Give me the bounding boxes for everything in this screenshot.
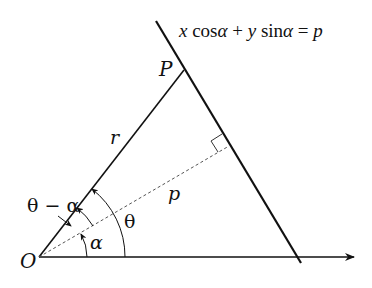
label-point-p: P — [158, 57, 173, 81]
polar-line-diagram: O P r p θ α θ − α x cosα + y sinα = p — [0, 0, 372, 288]
segment-op — [39, 70, 184, 257]
label-origin: O — [20, 249, 36, 273]
label-theta: θ — [124, 210, 135, 232]
label-theta-minus-alpha: θ − α — [27, 194, 79, 216]
right-angle-marker — [211, 134, 222, 152]
line-equation: x cosα + y sinα = p — [178, 20, 323, 41]
label-alpha: α — [90, 231, 103, 253]
line-l — [156, 21, 301, 263]
label-p: p — [168, 182, 180, 204]
theta-minus-alpha-arc — [77, 208, 93, 226]
alpha-arc — [81, 234, 87, 257]
label-r: r — [110, 126, 121, 148]
